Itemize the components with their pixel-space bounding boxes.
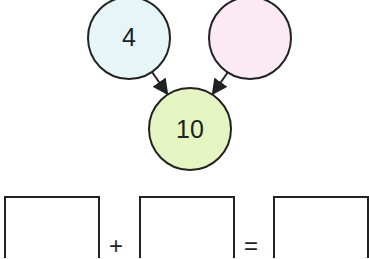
equals-sign: = — [244, 234, 258, 258]
left-part-value: 4 — [99, 22, 159, 52]
answer-box-2[interactable] — [139, 196, 235, 258]
arrow-right-to-whole — [214, 72, 228, 92]
arrow-left-to-whole — [152, 72, 166, 92]
part-circle-right — [209, 0, 291, 79]
answer-box-3[interactable] — [273, 196, 369, 258]
whole-value: 10 — [160, 114, 220, 144]
answer-box-1[interactable] — [4, 196, 100, 258]
plus-sign: + — [109, 234, 123, 258]
